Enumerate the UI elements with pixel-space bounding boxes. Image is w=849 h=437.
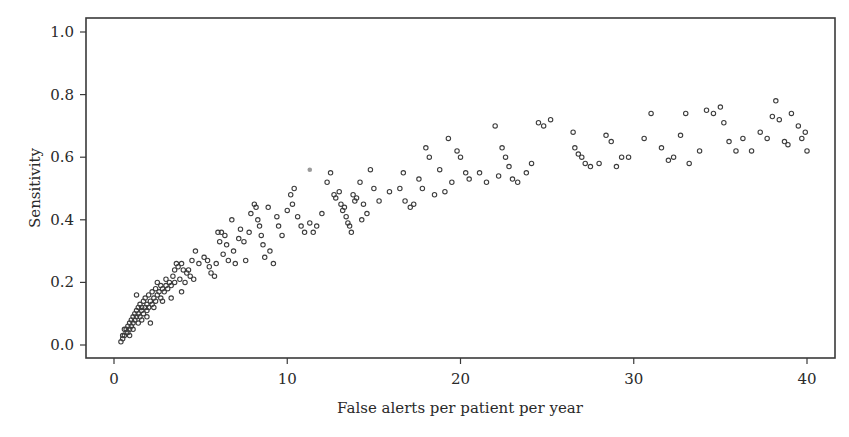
data-point xyxy=(361,202,365,206)
data-point xyxy=(438,168,442,172)
plot-frame xyxy=(86,18,835,358)
data-point xyxy=(722,121,726,125)
data-point xyxy=(280,233,284,237)
data-point xyxy=(148,321,152,325)
data-point xyxy=(671,155,675,159)
data-point xyxy=(580,155,584,159)
data-point xyxy=(328,171,332,175)
data-point xyxy=(597,161,601,165)
data-point xyxy=(484,180,488,184)
data-point xyxy=(458,155,462,159)
data-point xyxy=(169,296,173,300)
data-point xyxy=(205,258,209,262)
data-point xyxy=(536,121,540,125)
data-point xyxy=(257,224,261,228)
data-point xyxy=(358,180,362,184)
data-point xyxy=(183,280,187,284)
data-point xyxy=(704,108,708,112)
data-point xyxy=(233,261,237,265)
data-point xyxy=(308,221,312,225)
data-point xyxy=(765,136,769,140)
data-point xyxy=(193,249,197,253)
data-point xyxy=(515,180,519,184)
data-point xyxy=(275,214,279,218)
data-point xyxy=(718,105,722,109)
data-point xyxy=(496,174,500,178)
data-point xyxy=(207,265,211,269)
data-point xyxy=(290,202,294,206)
data-point xyxy=(803,130,807,134)
x-tick-label: 20 xyxy=(451,370,470,388)
y-tick-label: 0.8 xyxy=(50,86,74,104)
data-point xyxy=(190,258,194,262)
data-point xyxy=(500,146,504,150)
data-point xyxy=(614,164,618,168)
data-point xyxy=(242,240,246,244)
data-point xyxy=(666,158,670,162)
data-point xyxy=(684,111,688,115)
y-tick-label: 0.6 xyxy=(50,148,74,166)
data-point xyxy=(191,277,195,281)
data-point xyxy=(214,261,218,265)
data-point xyxy=(777,117,781,121)
data-point xyxy=(224,243,228,247)
data-point xyxy=(261,243,265,247)
data-point xyxy=(368,168,372,172)
data-point xyxy=(541,124,545,128)
data-point xyxy=(774,99,778,103)
data-point xyxy=(238,227,242,231)
data-point xyxy=(711,111,715,115)
x-axis-label: False alerts per patient per year xyxy=(337,399,584,417)
data-point xyxy=(455,149,459,153)
data-point xyxy=(320,211,324,215)
y-axis-label: Sensitivity xyxy=(26,148,44,228)
y-tick-label: 1.0 xyxy=(50,23,74,41)
data-point xyxy=(295,214,299,218)
data-point xyxy=(360,218,364,222)
x-tick-label: 30 xyxy=(624,370,643,388)
data-point xyxy=(263,255,267,259)
data-point xyxy=(529,161,533,165)
data-point xyxy=(226,258,230,262)
data-point xyxy=(302,230,306,234)
data-point xyxy=(510,177,514,181)
data-point xyxy=(349,230,353,234)
data-point xyxy=(626,155,630,159)
data-point xyxy=(687,161,691,165)
data-point xyxy=(443,189,447,193)
data-point xyxy=(311,230,315,234)
data-point xyxy=(420,186,424,190)
data-point xyxy=(171,274,175,278)
data-point xyxy=(588,164,592,168)
data-point xyxy=(573,146,577,150)
data-point xyxy=(642,136,646,140)
data-point xyxy=(179,261,183,265)
data-point xyxy=(197,261,201,265)
data-point xyxy=(398,186,402,190)
data-point xyxy=(372,186,376,190)
data-point xyxy=(649,111,653,115)
data-point xyxy=(770,114,774,118)
data-point xyxy=(136,321,140,325)
data-point xyxy=(276,224,280,228)
data-point xyxy=(145,315,149,319)
data-point xyxy=(503,155,507,159)
data-point xyxy=(285,208,289,212)
data-point xyxy=(401,171,405,175)
y-tick-label: 0.4 xyxy=(50,211,74,229)
data-point xyxy=(741,136,745,140)
data-point xyxy=(178,277,182,281)
data-point xyxy=(266,205,270,209)
data-point xyxy=(678,133,682,137)
data-point xyxy=(315,224,319,228)
data-point xyxy=(403,199,407,203)
data-point xyxy=(377,199,381,203)
data-point xyxy=(256,218,260,222)
x-tick-label: 40 xyxy=(797,370,816,388)
data-point xyxy=(450,180,454,184)
data-point xyxy=(365,211,369,215)
data-point xyxy=(344,214,348,218)
x-tick-label: 0 xyxy=(109,370,119,388)
data-point xyxy=(604,133,608,137)
data-point xyxy=(179,290,183,294)
